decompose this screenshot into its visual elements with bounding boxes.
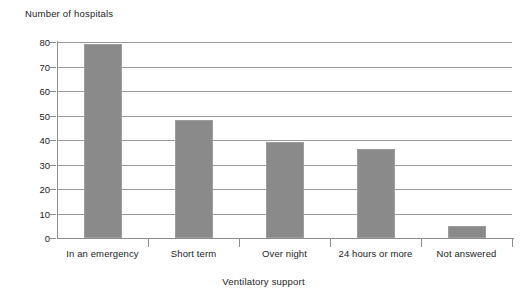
gridline <box>57 67 512 68</box>
y-tick-label: 30 <box>26 159 50 170</box>
gridline <box>57 42 512 43</box>
y-tick-mark <box>50 42 56 43</box>
y-axis-title: Number of hospitals <box>25 8 113 19</box>
y-tick-mark <box>50 91 56 92</box>
plot-area <box>57 42 512 238</box>
gridline <box>57 140 512 141</box>
bar <box>357 149 395 238</box>
x-tick-mark <box>330 239 331 247</box>
x-tick-label: 24 hours or more <box>339 248 413 259</box>
y-tick-mark <box>50 67 56 68</box>
y-tick-mark <box>50 116 56 117</box>
y-axis-tick-labels: 01020304050607080 <box>25 42 50 238</box>
x-tick-label: Short term <box>171 248 216 259</box>
y-tick-label: 70 <box>26 61 50 72</box>
gridline <box>57 116 512 117</box>
gridline <box>57 91 512 92</box>
y-tick-label: 40 <box>26 135 50 146</box>
y-tick-label: 50 <box>26 110 50 121</box>
gridline <box>57 238 512 239</box>
y-tick-mark <box>50 214 56 215</box>
x-tick-label: In an emergency <box>66 248 138 259</box>
y-tick-mark <box>50 238 56 239</box>
x-tick-label: Not answered <box>437 248 497 259</box>
y-tick-mark <box>50 189 56 190</box>
y-tick-label: 20 <box>26 184 50 195</box>
bar <box>84 44 122 238</box>
y-tick-label: 80 <box>26 37 50 48</box>
bar <box>175 120 213 238</box>
bar <box>448 226 486 238</box>
x-tick-mark <box>512 239 513 247</box>
bar-chart: Number of hospitals 01020304050607080 Ve… <box>0 0 527 298</box>
y-tick-mark <box>50 165 56 166</box>
y-tick-mark <box>50 140 56 141</box>
x-tick-mark <box>148 239 149 247</box>
bar <box>266 142 304 238</box>
x-axis-title: Ventilatory support <box>0 276 527 287</box>
x-tick-label: Over night <box>262 248 307 259</box>
x-tick-mark <box>239 239 240 247</box>
y-tick-label: 0 <box>26 233 50 244</box>
x-tick-mark <box>421 239 422 247</box>
y-tick-label: 60 <box>26 86 50 97</box>
y-tick-label: 10 <box>26 208 50 219</box>
